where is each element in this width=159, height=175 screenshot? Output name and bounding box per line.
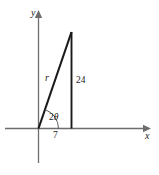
angle-symbol: θ [54,112,59,122]
arrow-up-icon [35,10,42,18]
horizontal-leg-label: 7 [53,131,58,141]
trigonometry-figure: y x r 24 7 2θ [0,0,159,175]
x-axis-label: x [145,131,149,141]
y-axis-label: y [31,8,35,18]
figure-canvas [0,0,159,175]
vertical-leg-label: 24 [76,76,86,86]
angle-label: 2θ [49,113,58,123]
hypotenuse-label: r [45,73,49,83]
